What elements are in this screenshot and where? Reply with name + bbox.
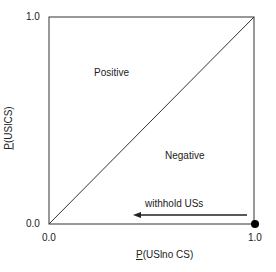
point-dot: [251, 220, 259, 228]
x-axis-label-prefix: P: [136, 249, 143, 260]
y-axis-label-prefix: P: [3, 143, 14, 150]
x-axis-label-rest: (USlno CS): [143, 249, 194, 260]
x-tick-1: 1.0: [248, 232, 262, 243]
arrow-label: withhold USs: [145, 198, 203, 209]
x-axis-label: P(USlno CS): [136, 249, 193, 260]
y-axis-label: P(USlCS): [3, 106, 14, 149]
region-label-negative: Negative: [165, 150, 204, 161]
region-label-positive: Positive: [94, 67, 129, 78]
arrow-head-icon: [133, 212, 141, 218]
y-tick-1: 1.0: [26, 11, 40, 22]
x-tick-0: 0.0: [42, 232, 56, 243]
y-axis-label-rest: (USlCS): [3, 106, 14, 143]
y-tick-0: 0.0: [26, 218, 40, 229]
diagonal-line: [49, 17, 254, 224]
